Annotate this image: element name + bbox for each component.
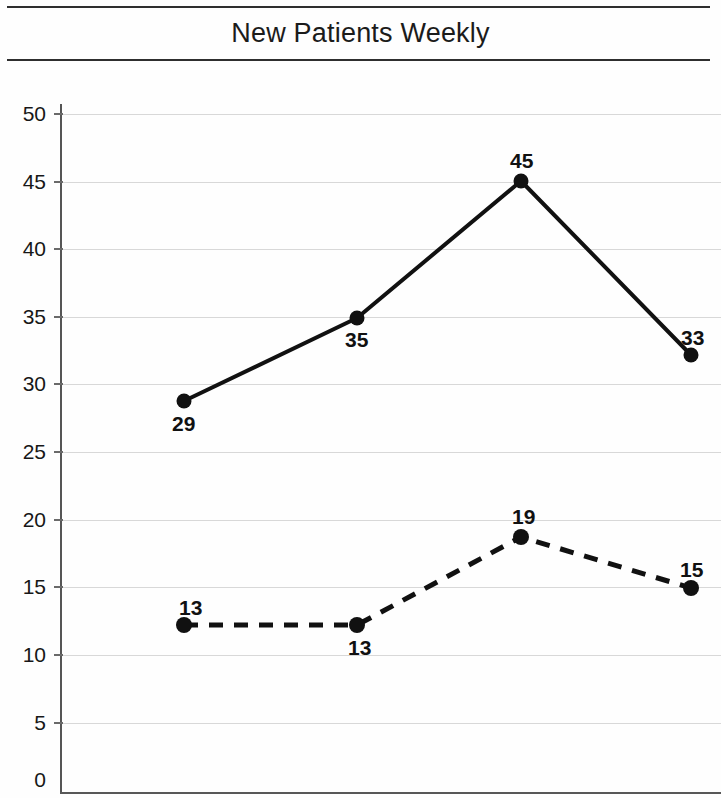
y-axis-label-45: 45: [0, 170, 46, 194]
y-axis-label-30: 30: [0, 372, 46, 396]
data-label-dashed-4: 15: [680, 558, 703, 582]
data-label-dashed-3: 19: [512, 505, 535, 529]
tick-20: [54, 519, 63, 521]
data-label-solid-2: 35: [345, 328, 368, 352]
tick-30: [54, 383, 63, 385]
tick-25: [54, 451, 63, 453]
data-label-dashed-1: 13: [179, 596, 202, 620]
solid-series-marker: [350, 311, 365, 326]
y-axis-label-50: 50: [0, 102, 46, 126]
chart-page: New Patients Weekly 50 45 40 35 30 25 20…: [0, 0, 721, 798]
tick-50: [54, 113, 63, 115]
gridline-45: [62, 182, 721, 183]
data-label-dashed-2: 13: [348, 636, 371, 660]
gridline-40: [62, 249, 721, 250]
tick-10: [54, 654, 63, 656]
dashed-series-marker: [513, 529, 529, 545]
y-axis-label-15: 15: [0, 575, 46, 599]
tick-40: [54, 248, 63, 250]
data-label-solid-3: 45: [510, 149, 533, 173]
data-label-solid-4: 33: [681, 326, 704, 350]
dashed-series-line: [184, 537, 691, 625]
dashed-series-marker: [683, 580, 699, 596]
y-axis-label-5: 5: [0, 711, 46, 735]
tick-35: [54, 316, 63, 318]
gridline-35: [62, 317, 721, 318]
y-axis-label-40: 40: [0, 237, 46, 261]
solid-series-line: [184, 181, 691, 401]
plot-area: 50 45 40 35 30 25 20 15 10 5 0: [0, 0, 721, 798]
gridline-25: [62, 452, 721, 453]
tick-15: [54, 586, 63, 588]
tick-5: [54, 722, 63, 724]
y-axis-label-10: 10: [0, 643, 46, 667]
gridline-20: [62, 520, 721, 521]
y-axis-label-20: 20: [0, 508, 46, 532]
data-label-solid-1: 29: [172, 412, 195, 436]
y-axis-label-35: 35: [0, 305, 46, 329]
y-axis-label-0: 0: [0, 768, 46, 792]
x-axis-line: [60, 792, 721, 794]
gridline-50: [62, 114, 721, 115]
solid-series-marker: [514, 174, 529, 189]
gridline-10: [62, 655, 721, 656]
gridline-5: [62, 723, 721, 724]
gridline-30: [62, 384, 721, 385]
solid-series-marker: [177, 394, 192, 409]
gridline-15: [62, 587, 721, 588]
dashed-series-marker: [349, 617, 365, 633]
series-overlay: [0, 0, 721, 798]
tick-45: [54, 181, 63, 183]
y-axis-label-25: 25: [0, 440, 46, 464]
y-axis-line: [60, 104, 62, 794]
